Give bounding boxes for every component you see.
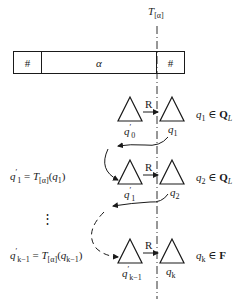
triangle-q1prime [118,160,142,184]
triangle-q1 [160,97,184,121]
tape: # α # [13,51,185,74]
tape-content: α [42,52,156,73]
triangle-qk [160,239,184,263]
state-label-q1: q1 [168,124,178,138]
state-label-qkminus1prime: q′k−1 [122,266,142,282]
feed-arrow-1 [105,149,118,180]
relation-label-2: R [145,162,152,173]
state-label-q0prime: q′0 [124,124,135,140]
return-arrow-2 [113,194,168,206]
tape-left-marker: # [14,52,42,73]
equation-q1prime: q′1 = T[α](q1) [10,169,65,185]
state-label-q2: q2 [170,187,180,201]
relation-label-3: R [145,240,152,251]
state-label-qk: qk [166,266,176,280]
membership-q2: q2 ∈ QL [196,172,232,186]
membership-q1: q1 ∈ QL [196,109,232,123]
vertical-ellipsis: ⋮ [41,212,54,225]
transition-function-label: T[α] [148,6,164,20]
tape-right-marker: # [156,52,184,73]
equation-qkminus1prime: q′k−1 = T[α](qk−1) [10,248,83,264]
state-label-q1prime: q′1 [124,187,135,203]
membership-qk: qk ∈ F [196,250,226,264]
feed-arrow-dashed [92,212,119,257]
triangle-qkminus1prime [118,239,142,263]
relation-label-1: R [145,99,152,110]
triangle-q0prime [118,97,142,121]
tape-transition-diagram: T[α] # α # R q′0 q1 q1 ∈ QL q′1 = T[α](q… [0,0,245,299]
triangle-q2 [160,160,184,184]
